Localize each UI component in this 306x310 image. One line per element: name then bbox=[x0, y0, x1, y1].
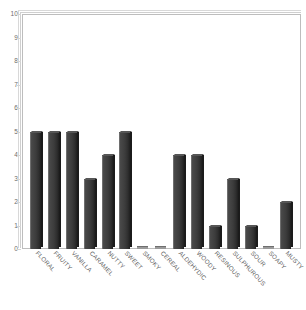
bar-side-face bbox=[291, 202, 293, 247]
y-axis-tick-mark bbox=[17, 155, 21, 156]
bar-caramel bbox=[84, 14, 98, 249]
bar-rect bbox=[102, 155, 113, 249]
bar-side-face bbox=[113, 155, 115, 247]
bar-rect bbox=[245, 226, 256, 250]
bar-rect bbox=[119, 132, 130, 250]
bar-rect bbox=[84, 179, 95, 250]
bar-side-face bbox=[59, 132, 61, 248]
y-axis-tick-mark bbox=[17, 61, 21, 62]
y-axis-tick-mark bbox=[17, 179, 21, 180]
bar-fruity bbox=[48, 14, 62, 249]
y-axis-tick-mark bbox=[17, 14, 21, 15]
bar-cereal bbox=[155, 14, 169, 249]
bar-rect bbox=[280, 202, 291, 249]
bar-side-face bbox=[95, 179, 97, 248]
bar-rect bbox=[227, 179, 238, 250]
bar-floral bbox=[30, 14, 44, 249]
bars-container bbox=[22, 14, 301, 249]
bar-vanilla bbox=[66, 14, 80, 249]
y-axis: 012345678910 bbox=[0, 0, 22, 310]
bar-resinous bbox=[209, 14, 223, 249]
bar-sweet bbox=[119, 14, 133, 249]
bar-side-face bbox=[256, 226, 258, 248]
bar-rect bbox=[66, 132, 77, 250]
bar-side-face bbox=[238, 179, 240, 248]
bar-soapy bbox=[263, 14, 277, 249]
x-axis-labels: FLORALFRUITYVANILLACARAMELNUTTYSWEETSMOK… bbox=[22, 250, 301, 310]
y-axis-tick-mark bbox=[17, 108, 21, 109]
bar-side-face bbox=[202, 155, 204, 247]
bar-side-face bbox=[130, 132, 132, 248]
bar-musty bbox=[280, 14, 294, 249]
bar-nutty bbox=[102, 14, 116, 249]
y-axis-tick-mark bbox=[17, 85, 21, 86]
x-axis-label-musty: MUSTY bbox=[285, 250, 305, 271]
bar-rect bbox=[173, 155, 184, 249]
bar-woody bbox=[191, 14, 205, 249]
bar-sulphurous bbox=[227, 14, 241, 249]
y-axis-tick-mark bbox=[17, 226, 21, 227]
bar-chart: 012345678910 FLORALFRUITYVANILLACARAMELN… bbox=[0, 0, 306, 310]
bar-side-face bbox=[41, 132, 43, 248]
bar-side-face bbox=[77, 132, 79, 248]
bar-aldehydic bbox=[173, 14, 187, 249]
bar-rect bbox=[209, 226, 220, 250]
y-axis-tick-mark bbox=[17, 249, 21, 250]
bar-side-face bbox=[184, 155, 186, 247]
bar-sour bbox=[245, 14, 259, 249]
y-axis-tick-mark bbox=[17, 38, 21, 39]
y-axis-tick-mark bbox=[17, 202, 21, 203]
bar-smoky bbox=[137, 14, 151, 249]
bar-rect bbox=[30, 132, 41, 250]
y-axis-tick-mark bbox=[17, 132, 21, 133]
bar-rect bbox=[191, 155, 202, 249]
bar-side-face bbox=[220, 226, 222, 248]
bar-rect bbox=[48, 132, 59, 250]
